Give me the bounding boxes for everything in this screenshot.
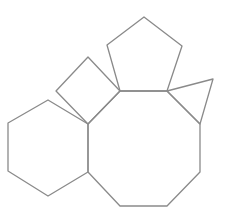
diagram-canvas <box>0 0 225 219</box>
hexagon-shape <box>8 100 88 196</box>
polygons-diagram <box>0 0 225 219</box>
square-shape <box>56 57 120 124</box>
octagon-shape <box>88 91 200 206</box>
pentagon-shape <box>107 17 182 91</box>
triangle-shape <box>167 79 213 124</box>
